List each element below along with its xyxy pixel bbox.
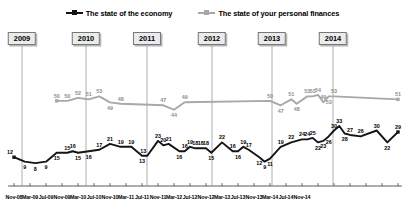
data-label: 50 [64, 93, 70, 99]
data-label: 15 [208, 155, 214, 161]
data-label: 47 [278, 108, 284, 114]
data-label: 54 [315, 87, 321, 93]
data-label: 9 [23, 164, 26, 170]
data-label: 27 [347, 127, 353, 133]
year-marker-2009: 2009 [8, 32, 36, 45]
data-label: 12 [256, 160, 262, 166]
data-label: 9 [45, 164, 48, 170]
x-axis-label: Nov-12 [198, 194, 215, 200]
series-end-marker [55, 99, 58, 102]
x-axis-label: Jul-12 [183, 194, 197, 200]
data-label: 15 [54, 155, 60, 161]
year-marker-2013: 2013 [258, 32, 286, 45]
data-label: 53 [331, 88, 337, 94]
data-label: 19 [128, 139, 134, 145]
data-label: 21 [166, 136, 172, 142]
data-label: 16 [70, 143, 76, 149]
data-label: 51 [288, 91, 294, 97]
x-axis-label: Nov-11 [150, 194, 166, 200]
year-marker-2011: 2011 [133, 32, 161, 45]
data-label: 9 [263, 164, 266, 170]
data-label: 50 [267, 93, 273, 99]
year-marker-2012: 2012 [198, 32, 226, 45]
data-label: 16 [230, 143, 236, 149]
data-label: 19 [118, 139, 124, 145]
x-axis-label: Jul-11 [135, 194, 149, 200]
data-label: 15 [75, 155, 81, 161]
series-end-marker [396, 130, 399, 133]
data-label: 18 [203, 140, 209, 146]
data-label: 51 [86, 91, 92, 97]
data-label: 25 [310, 130, 316, 136]
data-label: 22 [384, 145, 390, 151]
x-axis-label: Nov-14 [294, 194, 311, 200]
data-label: 29 [395, 124, 401, 130]
data-label: 53 [96, 88, 102, 94]
x-axis-label: Jul-09 [39, 194, 53, 200]
data-label: 47 [160, 97, 166, 103]
data-label: 11 [267, 161, 273, 167]
data-label: 26 [326, 139, 332, 145]
x-axis-label: Nov-10 [102, 194, 119, 200]
data-label: 28 [342, 136, 348, 142]
year-marker-2010: 2010 [72, 32, 100, 45]
data-label: 51 [395, 91, 401, 97]
x-axis-label: Mar-12 [166, 194, 182, 200]
x-axis-label: Mar-10 [70, 194, 86, 200]
x-axis-label: Jul-13 [231, 194, 245, 200]
data-label: 44 [171, 112, 177, 118]
x-axis-label: Jul-14 [279, 194, 293, 200]
data-label: 8 [34, 166, 37, 172]
data-label: 19 [278, 139, 284, 145]
data-label: 22 [219, 134, 225, 140]
data-label: 12 [7, 149, 13, 155]
x-axis-label: Mar-14 [262, 194, 278, 200]
data-label: 26 [358, 128, 364, 134]
x-axis-label: Jul-10 [87, 194, 101, 200]
series-end-marker [12, 156, 15, 159]
x-axis-label: Nov-13 [246, 194, 263, 200]
data-label: 17 [246, 142, 252, 148]
x-axis-label: Nov-08 [6, 194, 23, 200]
data-label: 49 [107, 105, 113, 111]
x-axis-label: Mar-11 [118, 194, 134, 200]
data-label: 30 [374, 123, 380, 129]
data-label: 13 [139, 158, 145, 164]
data-label: 16 [235, 154, 241, 160]
data-label: 52 [75, 90, 81, 96]
data-label: 21 [107, 136, 113, 142]
data-label: 13 [140, 148, 146, 154]
data-label: 53 [326, 99, 332, 105]
data-label: 22 [288, 134, 294, 140]
data-label: 16 [176, 154, 182, 160]
x-axis-label: Mar-13 [214, 194, 230, 200]
data-label: 33 [336, 118, 342, 124]
x-axis-label: Nov-09 [54, 194, 71, 200]
data-label: 16 [86, 154, 92, 160]
year-marker-2014: 2014 [319, 32, 347, 45]
x-axis-label: Mar-09 [22, 194, 38, 200]
data-label: 49 [182, 94, 188, 100]
data-label: 50 [54, 93, 60, 99]
chart-container: The state of the economy The state of yo… [0, 0, 405, 209]
data-label: 48 [294, 106, 300, 112]
data-label: 48 [118, 96, 124, 102]
data-label: 17 [96, 142, 102, 148]
series-end-marker [396, 98, 399, 101]
